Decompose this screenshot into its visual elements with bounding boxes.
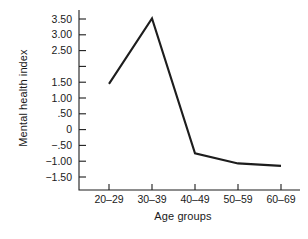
y-tick-label: 2.50 — [52, 44, 73, 56]
y-tick-label: 3.00 — [52, 28, 73, 40]
x-tick-label: 20–29 — [94, 193, 123, 205]
y-tick-label: −1.50 — [45, 171, 72, 183]
x-tick-labels: 20–29 30–39 40–49 50–59 60–69 — [94, 193, 295, 205]
y-tick-label: −1.00 — [45, 155, 72, 167]
y-tick-label: −.50 — [51, 139, 72, 151]
axis-frame — [79, 10, 300, 190]
y-tick-label: 0 — [66, 123, 72, 135]
y-tick-labels: 3.50 3.00 2.50 1.50 1.00 .50 0 −.50 −1.0… — [45, 13, 72, 183]
x-tick-label: 40–49 — [180, 193, 209, 205]
x-tick-label: 30–39 — [137, 193, 166, 205]
data-series-line — [109, 18, 281, 166]
plot-area: 3.50 3.00 2.50 1.50 1.00 .50 0 −.50 −1.0… — [0, 0, 308, 239]
y-tick-label: 1.50 — [52, 76, 73, 88]
y-tick-label: 3.50 — [52, 13, 73, 25]
x-tick-label: 50–59 — [223, 193, 252, 205]
y-tick-label: 1.00 — [52, 92, 73, 104]
y-tick-marks — [79, 19, 86, 177]
x-tick-label: 60–69 — [266, 193, 295, 205]
y-tick-label: .50 — [57, 107, 72, 119]
line-chart: Mental health index Age groups 3.50 3.00… — [0, 0, 308, 239]
x-tick-marks — [109, 184, 281, 190]
